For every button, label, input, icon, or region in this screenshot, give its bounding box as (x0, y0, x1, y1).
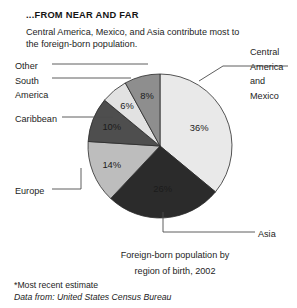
footnote-source: Data from: United States Census Bureau (14, 292, 171, 304)
pie-slices (88, 74, 232, 218)
pie-slice-value-label: 8% (140, 90, 154, 101)
callout-asia: Asia (258, 228, 276, 241)
pie-slice-value-label: 10% (102, 121, 121, 132)
infographic-figure: ...FROM NEAR AND FAR Central America, Me… (0, 0, 297, 308)
callout-central-line-1: Central (250, 45, 283, 60)
chart-caption-line-2: region of birth, 2002 (90, 263, 260, 279)
callout-central-line-4: Mexico (250, 89, 283, 104)
pie-slice-value-label: 36% (190, 122, 209, 133)
callout-south-america: South America (15, 74, 48, 102)
pie-slice-value-label: 14% (102, 159, 121, 170)
chart-caption-line-1: Foreign-born population by (90, 247, 260, 263)
callout-europe: Europe (15, 185, 44, 198)
pie-slice-value-label: 6% (120, 100, 134, 111)
pie-slice-value-label: 26% (153, 183, 172, 194)
callout-south-line-1: South (15, 74, 48, 88)
callout-other: Other (15, 60, 38, 73)
callout-south-line-2: America (15, 88, 48, 102)
callout-central-america-and-mexico: Central America and Mexico (250, 45, 283, 103)
callout-central-line-3: and (250, 74, 283, 89)
footnote-estimate: *Most recent estimate (14, 280, 171, 292)
leader-line-europe (52, 168, 81, 189)
callout-caribbean: Caribbean (15, 113, 57, 126)
footnotes: *Most recent estimate Data from: United … (14, 280, 171, 303)
chart-caption: Foreign-born population by region of bir… (90, 247, 260, 279)
callout-central-line-2: America (250, 60, 283, 75)
